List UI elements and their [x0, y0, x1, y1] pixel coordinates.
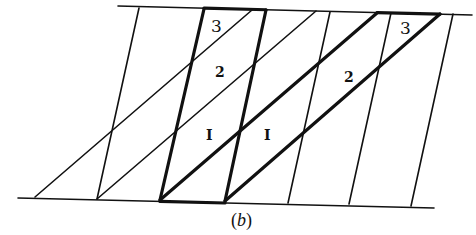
region-label: I — [264, 127, 271, 143]
diagonal-line — [225, 14, 440, 201]
region-label: 2 — [344, 69, 354, 85]
region-label: 3 — [400, 18, 411, 38]
steep-line — [349, 13, 391, 204]
top-boundary-thick-segment — [377, 13, 440, 15]
region-label: I — [206, 127, 213, 143]
figure-caption: (b) — [231, 210, 252, 231]
steep-line — [288, 12, 330, 203]
region-label: 2 — [215, 64, 225, 80]
steep-line — [160, 9, 204, 200]
bottom-boundary-thick-segment — [160, 201, 225, 203]
steep-line — [411, 14, 453, 206]
diagonal-line — [97, 11, 316, 199]
lattice-diagram: 32II23 (b) — [0, 0, 476, 235]
steep-line — [97, 8, 139, 199]
region-label: 3 — [211, 16, 222, 36]
diagonal-line — [35, 10, 252, 197]
diagonal-line — [160, 13, 377, 200]
diagonal-lines — [35, 10, 440, 201]
top-boundary-thick-segment — [204, 8, 266, 10]
